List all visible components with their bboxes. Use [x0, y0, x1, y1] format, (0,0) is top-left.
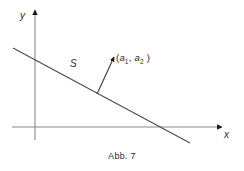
axis-label-x: x — [224, 130, 229, 140]
line-s — [13, 48, 190, 143]
figure-abb-7: y x S (a1,a2) Abb. 7 — [0, 0, 244, 171]
line-label-s: S — [70, 59, 77, 69]
vector-label-comma: , — [129, 52, 132, 63]
vector-label-sub2: 2 — [140, 58, 144, 65]
normal-vector-label: (a1,a2) — [116, 53, 150, 65]
axis-label-y: y — [20, 11, 25, 21]
normal-vector-arrow — [97, 57, 114, 94]
vector-label-close-paren: ) — [147, 52, 150, 63]
figure-caption: Abb. 7 — [0, 152, 244, 161]
figure-canvas — [0, 0, 244, 171]
